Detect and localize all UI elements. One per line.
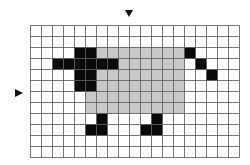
body-cell	[108, 103, 119, 114]
back-leg-cell	[152, 125, 163, 136]
front-leg-cell	[97, 114, 108, 125]
body-cell	[174, 48, 185, 59]
head-cell	[86, 48, 97, 59]
head-cell	[75, 81, 86, 92]
body-cell	[141, 103, 152, 114]
body-cell	[108, 48, 119, 59]
body-cell	[163, 48, 174, 59]
vertical-axis-arrow-icon	[125, 10, 133, 17]
body-cell	[141, 92, 152, 103]
body-cell	[141, 70, 152, 81]
body-cell	[141, 48, 152, 59]
body-cell	[141, 59, 152, 70]
body-cell	[152, 70, 163, 81]
body-cell	[130, 70, 141, 81]
body-cell	[163, 92, 174, 103]
body-cell	[119, 59, 130, 70]
body-cell	[108, 70, 119, 81]
body-cell	[86, 103, 97, 114]
body-cell	[97, 103, 108, 114]
tail-cell	[196, 59, 207, 70]
body-cell	[152, 48, 163, 59]
body-cell	[174, 81, 185, 92]
horizontal-axis-arrow-icon	[15, 89, 23, 97]
body-cell	[119, 92, 130, 103]
grid-lines	[31, 26, 240, 158]
body-cell	[174, 92, 185, 103]
body-cell	[174, 70, 185, 81]
grid-drawing	[30, 25, 240, 158]
body-cell	[97, 48, 108, 59]
body-cell	[152, 81, 163, 92]
body-cell	[130, 59, 141, 70]
body-cell	[163, 81, 174, 92]
head-cell	[75, 48, 86, 59]
body-cell	[130, 103, 141, 114]
body-cell	[174, 59, 185, 70]
body-cell	[86, 92, 97, 103]
body-cell	[163, 70, 174, 81]
body-cell	[97, 92, 108, 103]
ears-cell	[108, 59, 119, 70]
body-cell	[119, 70, 130, 81]
ears-cell	[53, 59, 64, 70]
head-cell	[75, 70, 86, 81]
body-cell	[97, 81, 108, 92]
body-cell	[174, 103, 185, 114]
tail-cell	[185, 48, 196, 59]
body-cell	[141, 81, 152, 92]
body-cell	[163, 59, 174, 70]
head-cell	[86, 81, 97, 92]
body-cell	[119, 103, 130, 114]
body-cell	[152, 92, 163, 103]
back-leg-cell	[141, 125, 152, 136]
body-cell	[152, 59, 163, 70]
body-cell	[152, 103, 163, 114]
ears-cell	[64, 59, 75, 70]
head-cell	[86, 70, 97, 81]
ears-cell	[97, 59, 108, 70]
back-leg-cell	[152, 114, 163, 125]
tail-cell	[207, 70, 218, 81]
front-leg-cell	[86, 125, 97, 136]
front-leg-cell	[97, 125, 108, 136]
body-cell	[130, 48, 141, 59]
body-cell	[130, 92, 141, 103]
body-cell	[97, 70, 108, 81]
body-cell	[108, 92, 119, 103]
head-cell	[86, 59, 97, 70]
body-cell	[108, 81, 119, 92]
head-cell	[75, 59, 86, 70]
body-cell	[119, 81, 130, 92]
body-cell	[163, 103, 174, 114]
body-cell	[119, 48, 130, 59]
body-cell	[130, 81, 141, 92]
